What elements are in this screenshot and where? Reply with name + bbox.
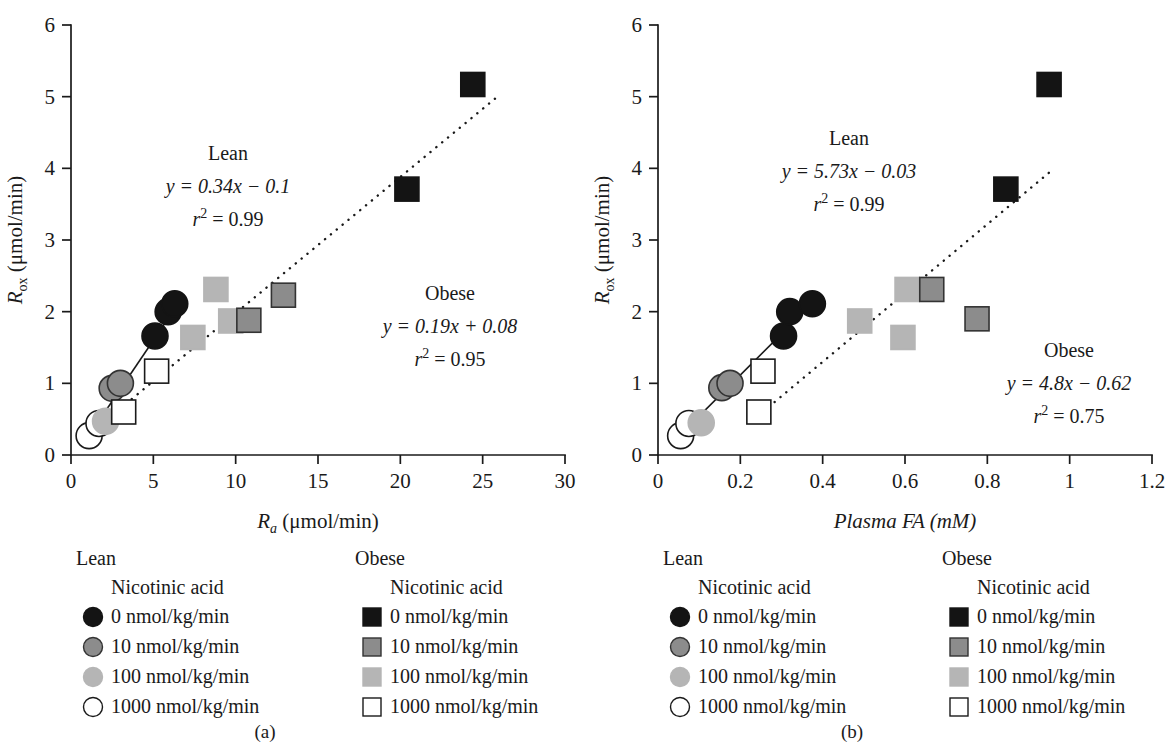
panel-caption: (b) <box>841 721 863 743</box>
y-tick-label: 3 <box>45 228 56 252</box>
legend-item-label: 0 nmol/kg/min <box>111 605 229 628</box>
legend-item-label: 10 nmol/kg/min <box>390 635 518 658</box>
legend-group-title: Obese <box>355 547 405 569</box>
legend-item[interactable]: 0 nmol/kg/min <box>671 605 817 628</box>
data-point-square <box>848 309 872 333</box>
legend-marker-square <box>950 638 968 656</box>
y-tick-label: 2 <box>632 300 643 324</box>
legend-item[interactable]: 100 nmol/kg/min <box>363 665 528 688</box>
annotation-lean: Leany = 0.34x − 0.1r2 = 0.99 <box>164 142 291 230</box>
legend-item[interactable]: 10 nmol/kg/min <box>84 635 240 658</box>
y-tick-label: 3 <box>632 228 643 252</box>
data-point-square <box>112 400 136 424</box>
y-axis-title-group: Rox (μmol/min) <box>590 176 617 306</box>
legend-subtitle: Nicotinic acid <box>698 576 811 598</box>
legend-item[interactable]: 100 nmol/kg/min <box>950 665 1115 688</box>
legend-item[interactable]: 100 nmol/kg/min <box>671 665 837 688</box>
legend-marker-square <box>363 608 381 626</box>
x-tick-label: 0 <box>653 469 664 493</box>
panel-caption: (a) <box>254 721 275 743</box>
legend-item[interactable]: 100 nmol/kg/min <box>84 665 250 688</box>
annotation-r-squared: r2 = 0.99 <box>813 191 884 215</box>
y-tick-label: 0 <box>45 443 56 467</box>
legend-a-lean: LeanNicotinic acid0 nmol/kg/min10 nmol/k… <box>76 547 259 718</box>
legend-marker-circle <box>84 638 103 657</box>
annotation-equation: y = 4.8x − 0.62 <box>1005 372 1132 395</box>
x-tick-label: 1 <box>1064 469 1075 493</box>
data-point-square <box>965 307 989 331</box>
legend-item[interactable]: 0 nmol/kg/min <box>84 605 230 628</box>
legend-a-obese: ObeseNicotinic acid0 nmol/kg/min10 nmol/… <box>355 547 538 718</box>
x-tick-label: 25 <box>472 469 493 493</box>
legend-marker-circle <box>671 668 690 687</box>
x-tick-label: 0.6 <box>892 469 918 493</box>
annotation-equation: y = 0.34x − 0.1 <box>164 175 291 198</box>
legend-marker-square <box>950 608 968 626</box>
data-point-square <box>271 283 295 307</box>
legend-marker-circle <box>84 668 103 687</box>
y-axis-title-group: Rox (μmol/min) <box>3 176 30 306</box>
panel-a-plot: 0123456051015202530Ra (μmol/min)Rox (μmo… <box>0 0 587 749</box>
x-tick-label: 0.4 <box>810 469 837 493</box>
annotation-equation: y = 0.19x + 0.08 <box>381 315 518 338</box>
x-axis-title: Ra (μmol/min) <box>256 509 379 536</box>
legend-item[interactable]: 1000 nmol/kg/min <box>363 695 538 718</box>
legend-item[interactable]: 1000 nmol/kg/min <box>84 695 260 718</box>
axes: 012345600.20.40.60.811.2Plasma FA (mM)Ro… <box>590 13 1165 533</box>
x-tick-label: 1.2 <box>1139 469 1165 493</box>
legend-b-obese: ObeseNicotinic acid0 nmol/kg/min10 nmol/… <box>942 547 1125 718</box>
y-tick-label: 0 <box>632 443 643 467</box>
legend-item-label: 100 nmol/kg/min <box>390 665 528 688</box>
data-point-square <box>895 277 919 301</box>
legend-b-lean: LeanNicotinic acid0 nmol/kg/min10 nmol/k… <box>663 547 846 718</box>
data-point-circle <box>771 323 797 349</box>
y-tick-label: 1 <box>45 371 56 395</box>
legend-item-label: 1000 nmol/kg/min <box>698 695 846 718</box>
y-tick-label: 2 <box>45 300 56 324</box>
data-point-square <box>395 177 419 201</box>
legend-marker-square <box>363 668 381 686</box>
panel-b-plot: 012345600.20.40.60.811.2Plasma FA (mM)Ro… <box>587 0 1174 749</box>
data-point-square <box>145 359 169 383</box>
legend-group-title: Lean <box>76 547 116 569</box>
legend-item-label: 1000 nmol/kg/min <box>111 695 259 718</box>
legend-item-label: 100 nmol/kg/min <box>111 665 249 688</box>
legend-item[interactable]: 1000 nmol/kg/min <box>950 695 1125 718</box>
legend-item[interactable]: 10 nmol/kg/min <box>671 635 827 658</box>
legend-marker-circle <box>84 698 103 717</box>
x-tick-label: 20 <box>390 469 411 493</box>
data-point-square <box>891 325 915 349</box>
data-point-square <box>920 277 944 301</box>
legend-item[interactable]: 10 nmol/kg/min <box>950 635 1105 658</box>
legend-subtitle: Nicotinic acid <box>390 576 503 598</box>
panel-b: 012345600.20.40.60.811.2Plasma FA (mM)Ro… <box>587 0 1174 749</box>
annotation-obese: Obesey = 0.19x + 0.08r2 = 0.95 <box>381 282 518 370</box>
panel-a: 0123456051015202530Ra (μmol/min)Rox (μmo… <box>0 0 587 749</box>
legend-marker-circle <box>84 608 103 627</box>
annotation-lean: Leany = 5.73x − 0.03r2 = 0.99 <box>780 127 917 215</box>
y-tick-label: 4 <box>632 156 643 180</box>
legend-item-label: 100 nmol/kg/min <box>977 665 1115 688</box>
series-obese <box>112 72 485 424</box>
annotation-r-squared: r2 = 0.95 <box>414 346 485 370</box>
legend-item[interactable]: 0 nmol/kg/min <box>950 605 1095 628</box>
data-point-circle <box>688 410 714 436</box>
annotation-group-name: Lean <box>829 127 869 149</box>
y-tick-label: 4 <box>45 156 56 180</box>
x-tick-label: 15 <box>308 469 329 493</box>
legend-item[interactable]: 10 nmol/kg/min <box>363 635 518 658</box>
data-point-circle <box>717 370 743 396</box>
x-tick-label: 5 <box>148 469 159 493</box>
axes: 0123456051015202530Ra (μmol/min)Rox (μmo… <box>3 13 576 536</box>
data-point-square <box>751 359 775 383</box>
x-tick-label: 10 <box>225 469 246 493</box>
data-point-square <box>204 277 228 301</box>
data-point-circle <box>142 323 168 349</box>
x-tick-label: 30 <box>555 469 576 493</box>
x-axis-title: Plasma FA (mM) <box>833 509 977 533</box>
legend-item[interactable]: 1000 nmol/kg/min <box>671 695 847 718</box>
annotation-r-squared: r2 = 0.99 <box>192 206 263 230</box>
legend-item[interactable]: 0 nmol/kg/min <box>363 605 508 628</box>
y-tick-label: 6 <box>632 13 643 37</box>
legend-group-title: Obese <box>942 547 992 569</box>
